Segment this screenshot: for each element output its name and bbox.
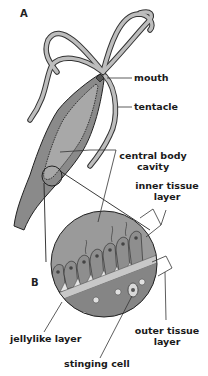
label-tentacle: tentacle <box>134 101 178 112</box>
label-inner-tissue-layer-line2: layer <box>134 191 200 202</box>
label-outer-tissue-layer-line1: outer tissue <box>132 325 202 336</box>
panel-label-b: B <box>31 277 39 288</box>
label-central-body-cavity-line1: central body <box>118 150 188 161</box>
hydra-body <box>14 74 104 230</box>
label-inner-tissue-layer: inner tissue layer <box>134 180 200 202</box>
label-jellylike-layer: jellylike layer <box>10 333 81 344</box>
label-inner-tissue-layer-line1: inner tissue <box>134 180 200 191</box>
label-mouth: mouth <box>134 72 169 83</box>
panel-label-a: A <box>20 8 28 19</box>
label-stinging-cell: stinging cell <box>64 358 130 369</box>
label-outer-tissue-layer: outer tissue layer <box>132 325 202 347</box>
magnified-view <box>40 211 170 330</box>
label-outer-tissue-layer-line2: layer <box>132 336 202 347</box>
label-central-body-cavity-line2: cavity <box>118 161 188 172</box>
label-central-body-cavity: central body cavity <box>118 150 188 172</box>
